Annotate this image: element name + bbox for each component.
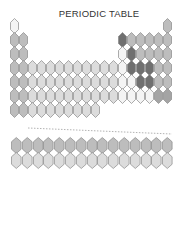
element-cell <box>10 102 19 118</box>
element-cell <box>109 88 118 104</box>
element-cell <box>154 88 163 104</box>
actinides-cell <box>87 152 98 169</box>
actinides-cell <box>151 152 162 169</box>
element-cell <box>145 88 154 104</box>
element-cell <box>19 102 28 118</box>
actinides-cell <box>141 152 152 169</box>
actinides-cell <box>97 152 108 169</box>
actinides-cell <box>76 152 87 169</box>
element-cell <box>82 102 91 118</box>
element-cell <box>163 88 172 104</box>
element-cell <box>118 88 127 104</box>
actinides-cell <box>22 152 33 169</box>
actinides-cell <box>162 152 173 169</box>
actinides-cell <box>65 152 76 169</box>
actinides-cell <box>43 152 54 169</box>
actinides-cell <box>119 152 130 169</box>
element-cell <box>46 102 55 118</box>
element-cell <box>91 102 100 118</box>
actinides-cell <box>130 152 141 169</box>
element-cell <box>64 102 73 118</box>
actinides-cell <box>33 152 44 169</box>
element-cell <box>55 102 64 118</box>
element-cell <box>28 102 37 118</box>
element-cell <box>37 102 46 118</box>
element-cell <box>127 88 136 104</box>
element-cell <box>73 102 82 118</box>
actinides-cell <box>11 152 22 169</box>
actinides-cell <box>108 152 119 169</box>
element-cell <box>136 88 145 104</box>
element-cell <box>100 88 109 104</box>
actinides-cell <box>54 152 65 169</box>
